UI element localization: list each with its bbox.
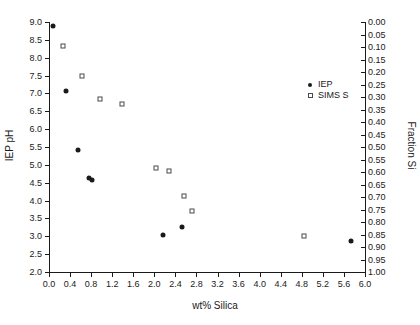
data-point-sims-s [60,44,65,49]
legend-marker-open-square-icon [305,93,315,98]
data-point-sims-s [153,166,158,171]
y-axis-right-tick-label: 0.45 [368,131,386,140]
y-axis-left-tick-label: 4.0 [14,197,42,206]
x-axis-tick [196,273,197,277]
y-axis-right-tick-label: 0.30 [368,93,386,102]
data-point-iep [348,238,353,243]
y-axis-left-title: IEP pH [4,116,15,176]
data-point-iep [50,23,55,28]
y-axis-left-tick-label: 2.5 [14,250,42,259]
data-point-iep [90,178,95,183]
x-axis-tick [154,273,155,277]
data-point-iep [179,224,184,229]
x-axis-tick [175,273,176,277]
x-axis-tick [260,273,261,277]
y-axis-right-tick-label: 0.55 [368,156,386,165]
x-axis-tick [49,273,50,277]
chart-figure: 9.08.58.07.57.06.56.05.55.04.54.03.53.02… [0,0,420,325]
y-axis-left-tick-label: 7.5 [14,72,42,81]
data-point-sims-s [190,208,195,213]
data-point-sims-s [302,233,307,238]
y-axis-right-tick-label: 0.70 [368,193,386,202]
y-axis-left-tick-label: 5.5 [14,143,42,152]
y-axis-left-tick-label: 3.5 [14,214,42,223]
y-axis-right-tick-label: 0.50 [368,143,386,152]
y-axis-right-tick-label: 0.20 [368,68,386,77]
y-axis-left-tick-label: 4.5 [14,179,42,188]
data-point-sims-s [182,193,187,198]
x-axis-tick [91,273,92,277]
y-axis-left-tick-label: 8.0 [14,54,42,63]
y-axis-left-tick-label: 8.5 [14,36,42,45]
y-axis-right-tick-label: 1.00 [368,268,386,277]
y-axis-right-title: Fraction Si [406,113,417,179]
x-axis-title: wt% Silica [160,300,270,311]
x-axis-line [49,272,366,273]
x-axis-tick [112,273,113,277]
y-axis-right-tick-label: 0.80 [368,218,386,227]
y-axis-right-tick-label: 0.10 [368,43,386,52]
y-axis-right-tick-label: 0.90 [368,243,386,252]
x-axis-tick [365,273,366,277]
y-axis-right-tick-label: 0.95 [368,256,386,265]
y-axis-right-tick-label: 0.65 [368,181,386,190]
y-axis-right-tick-label: 0.40 [368,118,386,127]
x-axis-tick [133,273,134,277]
x-axis-tick [218,273,219,277]
data-point-sims-s [98,97,103,102]
y-axis-right-tick-label: 0.75 [368,206,386,215]
y-axis-right-tick-label: 0.00 [368,18,386,27]
data-point-sims-s [79,73,84,78]
y-axis-left-tick-label: 2.0 [14,268,42,277]
data-point-iep [75,147,80,152]
y-axis-right-tick-label: 0.85 [368,231,386,240]
y-axis-right-tick-label: 0.05 [368,31,386,40]
y-axis-left-tick-label: 9.0 [14,18,42,27]
chart-legend: IEP SIMS S [305,79,349,101]
x-axis-tick [302,273,303,277]
y-axis-left-tick-label: 5.0 [14,161,42,170]
y-axis-left-tick-label: 3.0 [14,232,42,241]
y-axis-right-tick-label: 0.35 [368,106,386,115]
y-axis-right-tick-label: 0.15 [368,56,386,65]
data-point-sims-s [167,168,172,173]
x-axis-tick [239,273,240,277]
y-axis-left-tick-label: 6.0 [14,125,42,134]
legend-marker-filled-circle-icon [305,83,315,87]
x-axis-tick [70,273,71,277]
data-point-iep [64,88,69,93]
legend-label-iep: IEP [318,79,333,90]
x-axis-tick-label: 6.0 [352,280,378,289]
y-axis-left-tick-label: 7.0 [14,89,42,98]
data-point-sims-s [119,102,124,107]
legend-item-sims-s: SIMS S [305,90,349,101]
x-axis-tick [344,273,345,277]
y-axis-left-tick-label: 6.5 [14,107,42,116]
data-point-iep [161,233,166,238]
x-axis-tick [323,273,324,277]
y-axis-right-tick-label: 0.60 [368,168,386,177]
legend-label-sims-s: SIMS S [318,90,349,101]
x-axis-tick [281,273,282,277]
y-axis-right-tick-label: 0.25 [368,81,386,90]
legend-item-iep: IEP [305,79,349,90]
plot-area [49,22,365,272]
